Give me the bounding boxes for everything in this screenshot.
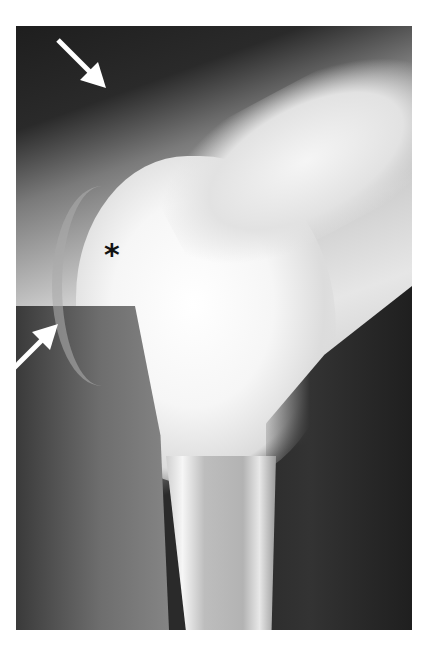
bone-mass <box>76 156 336 486</box>
asterisk-marker: * <box>104 240 120 270</box>
tibia-shaft <box>166 456 276 630</box>
radiograph-panel: * <box>16 26 412 630</box>
lower-right-dark <box>266 286 412 630</box>
soft-tissue-upper <box>16 26 412 630</box>
figure-caption-cropped <box>18 636 418 647</box>
arrow-up-right-icon <box>16 312 70 372</box>
upper-bone-band <box>138 26 412 298</box>
arrow-down-right-icon <box>54 36 114 96</box>
